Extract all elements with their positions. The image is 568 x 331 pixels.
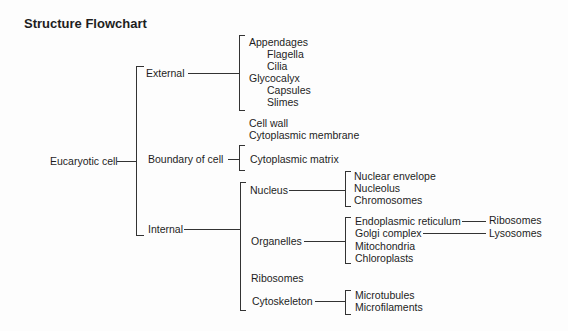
bracket-internal [240, 182, 241, 310]
connector [423, 233, 486, 234]
node-slimes: Slimes [267, 96, 299, 108]
bracket-tick [239, 35, 245, 36]
node-chromosomes: Chromosomes [354, 194, 422, 206]
node-endoplasmic-reticulum: Endoplasmic reticulum [355, 215, 461, 227]
node-boundary: Boundary of cell [148, 153, 223, 165]
node-lysosomes: Lysosomes [489, 227, 542, 239]
node-golgi-complex: Golgi complex [355, 227, 422, 239]
bracket-external [239, 35, 240, 110]
bracket-organelles [345, 217, 346, 263]
connector [304, 241, 345, 242]
node-appendages: Appendages [249, 36, 308, 48]
node-capsules: Capsules [267, 84, 311, 96]
node-er-ribosomes: Ribosomes [489, 214, 542, 226]
bracket-tick [239, 145, 245, 146]
connector [289, 190, 345, 191]
bracket-tick [240, 310, 246, 311]
node-eucaryotic-cell: Eucaryotic cell [50, 155, 118, 167]
node-chloroplasts: Chloroplasts [355, 252, 413, 264]
bracket-tick [345, 290, 351, 291]
node-cytoskeleton: Cytoskeleton [252, 295, 313, 307]
bracket-tick [345, 171, 351, 172]
connector [117, 161, 136, 162]
node-internal: Internal [148, 223, 183, 235]
node-ribosomes: Ribosomes [251, 272, 304, 284]
bracket-tick [345, 217, 351, 218]
bracket-tick [345, 263, 351, 264]
bracket-boundary [239, 145, 240, 170]
bracket-nucleus [345, 171, 346, 206]
node-external: External [146, 67, 185, 79]
bracket-tick [345, 206, 351, 207]
node-nuclear-envelope: Nuclear envelope [354, 170, 436, 182]
flowchart-canvas: Structure Flowchart Eucaryotic cell Exte… [0, 0, 568, 331]
connector [188, 73, 239, 74]
bracket-main [136, 66, 137, 235]
connector [315, 301, 345, 302]
node-microtubules: Microtubules [355, 289, 415, 301]
bracket-tick [345, 314, 351, 315]
node-mitochondria: Mitochondria [355, 240, 415, 252]
bracket-tick [136, 66, 144, 67]
connector [462, 221, 486, 222]
connector [228, 159, 239, 160]
bracket-tick [239, 170, 245, 171]
node-cell-wall: Cell wall [249, 117, 288, 129]
node-glycocalyx: Glycocalyx [249, 72, 300, 84]
connector [184, 229, 240, 230]
bracket-tick [136, 235, 144, 236]
page-title: Structure Flowchart [24, 16, 147, 31]
node-flagella: Flagella [267, 48, 304, 60]
bracket-tick [240, 182, 246, 183]
bracket-tick [239, 110, 245, 111]
node-cytoplasmic-membrane: Cytoplasmic membrane [249, 129, 359, 141]
bracket-cytoskeleton [345, 290, 346, 314]
node-organelles: Organelles [251, 235, 302, 247]
node-cilia: Cilia [267, 60, 287, 72]
node-cytoplasmic-matrix: Cytoplasmic matrix [250, 153, 339, 165]
node-nucleolus: Nucleolus [354, 182, 400, 194]
node-microfilaments: Microfilaments [355, 301, 423, 313]
node-nucleus: Nucleus [250, 184, 288, 196]
